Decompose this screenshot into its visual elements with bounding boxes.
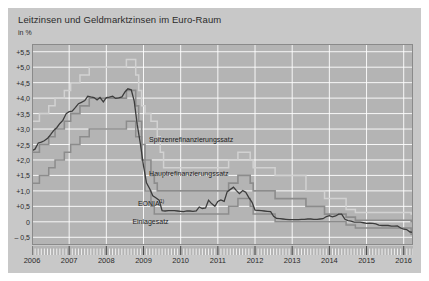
y-axis-tick-label: +0,5 bbox=[16, 203, 30, 210]
x-axis-tick-label: 2012 bbox=[247, 256, 264, 265]
y-axis-tick-label: – 0,5 bbox=[14, 234, 30, 241]
y-axis: +5,5+5,0+4,5+4,0+3,5+3,0+2,5+2,0+1,5+1,0… bbox=[8, 44, 30, 245]
x-axis-tick-label: 2010 bbox=[172, 256, 189, 265]
y-axis-tick-label: +3,5 bbox=[16, 110, 30, 117]
eonia-footnote-marker: 1) bbox=[160, 198, 164, 204]
x-axis-tick-label: 2015 bbox=[358, 256, 375, 265]
chart-unit-label: in % bbox=[18, 29, 32, 36]
y-axis-tick-label: 0 bbox=[26, 218, 30, 225]
chart-canvas bbox=[32, 44, 413, 245]
chart-figure: Leitzinsen und Geldmarktzinsen im Euro-R… bbox=[8, 8, 421, 273]
x-axis-tick-label: 2014 bbox=[321, 256, 338, 265]
x-axis-tick-label: 2007 bbox=[61, 256, 78, 265]
series-label-einlagesatz: Einlagesatz bbox=[132, 218, 168, 225]
y-axis-tick-label: +4,5 bbox=[16, 79, 30, 86]
series-label-eonia: EONIA1) bbox=[138, 198, 164, 207]
x-axis: 2006200720082009201020112012201320142015… bbox=[32, 246, 413, 268]
series-label-hauptrefinanzierungssatz: Hauptrefinanzierungssatz bbox=[149, 170, 228, 177]
x-axis-tick-label: 2016 bbox=[395, 256, 412, 265]
x-axis-tick-label: 2011 bbox=[210, 256, 226, 265]
x-axis-tick-label: 2013 bbox=[284, 256, 301, 265]
y-axis-tick-label: +5,0 bbox=[16, 64, 30, 71]
y-axis-tick-label: +5,5 bbox=[16, 48, 30, 55]
plot-area: SpitzenrefinanzierungssatzHauptrefinanzi… bbox=[32, 44, 413, 245]
x-axis-minor-ticks bbox=[32, 246, 413, 255]
series-label-spitzenrefinanzierungssatz: Spitzenrefinanzierungssatz bbox=[149, 136, 233, 143]
y-axis-tick-label: +3,0 bbox=[16, 126, 30, 133]
y-axis-tick-label: +1,5 bbox=[16, 172, 30, 179]
x-axis-tick-label: 2006 bbox=[24, 256, 41, 265]
x-axis-tick-strip bbox=[32, 246, 413, 255]
y-axis-tick-label: +1,0 bbox=[16, 187, 30, 194]
chart-title: Leitzinsen und Geldmarktzinsen im Euro-R… bbox=[18, 14, 221, 25]
x-axis-tick-label: 2009 bbox=[135, 256, 152, 265]
y-axis-tick-label: +2,5 bbox=[16, 141, 30, 148]
y-axis-tick-label: +4,0 bbox=[16, 95, 30, 102]
x-axis-tick-label: 2008 bbox=[98, 256, 115, 265]
y-axis-tick-label: +2,0 bbox=[16, 157, 30, 164]
